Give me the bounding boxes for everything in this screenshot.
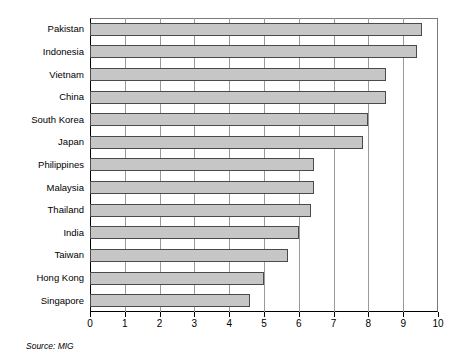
category-label-china: China bbox=[59, 92, 84, 102]
x-tick-label-3: 3 bbox=[182, 318, 206, 329]
x-tick-mark-7 bbox=[334, 312, 335, 317]
x-tick-mark-8 bbox=[368, 312, 369, 317]
bar-row bbox=[90, 222, 438, 245]
bar-row bbox=[90, 244, 438, 267]
category-label-india: India bbox=[63, 228, 84, 238]
bar-row bbox=[90, 86, 438, 109]
category-label-singapore: Singapore bbox=[41, 296, 84, 306]
x-tick-mark-4 bbox=[229, 312, 230, 317]
bar-south-korea[interactable] bbox=[90, 113, 368, 126]
bar-row bbox=[90, 154, 438, 177]
category-label-taiwan: Taiwan bbox=[54, 250, 84, 260]
bar-taiwan[interactable] bbox=[90, 249, 288, 262]
bar-row bbox=[90, 199, 438, 222]
x-tick-label-6: 6 bbox=[287, 318, 311, 329]
bar-vietnam[interactable] bbox=[90, 68, 386, 81]
category-label-japan: Japan bbox=[58, 137, 84, 147]
category-label-malaysia: Malaysia bbox=[47, 183, 85, 193]
bar-philippines[interactable] bbox=[90, 158, 314, 171]
x-tick-label-9: 9 bbox=[391, 318, 415, 329]
bar-row bbox=[90, 18, 438, 41]
category-label-philippines: Philippines bbox=[38, 160, 84, 170]
bar-hong-kong[interactable] bbox=[90, 272, 264, 285]
x-tick-label-7: 7 bbox=[322, 318, 346, 329]
bar-row bbox=[90, 63, 438, 86]
bar-india[interactable] bbox=[90, 226, 299, 239]
bar-row bbox=[90, 289, 438, 312]
x-tick-label-8: 8 bbox=[356, 318, 380, 329]
bar-thailand[interactable] bbox=[90, 204, 311, 217]
x-tick-label-4: 4 bbox=[217, 318, 241, 329]
x-tick-label-10: 10 bbox=[426, 318, 450, 329]
category-label-south-korea: South Korea bbox=[31, 115, 84, 125]
bar-indonesia[interactable] bbox=[90, 45, 417, 58]
category-label-thailand: Thailand bbox=[48, 205, 84, 215]
bars-group bbox=[90, 18, 438, 312]
x-tick-mark-5 bbox=[264, 312, 265, 317]
bar-chart-figure: PakistanIndonesiaVietnamChinaSouth Korea… bbox=[0, 0, 464, 364]
x-tick-mark-2 bbox=[160, 312, 161, 317]
bar-pakistan[interactable] bbox=[90, 23, 422, 36]
x-tick-mark-10 bbox=[438, 312, 439, 317]
bar-china[interactable] bbox=[90, 91, 386, 104]
x-tick-label-5: 5 bbox=[252, 318, 276, 329]
bar-malaysia[interactable] bbox=[90, 181, 314, 194]
x-tick-mark-3 bbox=[194, 312, 195, 317]
bar-japan[interactable] bbox=[90, 136, 363, 149]
x-tick-mark-6 bbox=[299, 312, 300, 317]
category-label-pakistan: Pakistan bbox=[48, 24, 84, 34]
category-label-hong-kong: Hong Kong bbox=[36, 273, 84, 283]
x-tick-label-2: 2 bbox=[148, 318, 172, 329]
bar-row bbox=[90, 108, 438, 131]
x-tick-label-1: 1 bbox=[113, 318, 137, 329]
x-tick-mark-1 bbox=[125, 312, 126, 317]
bar-row bbox=[90, 131, 438, 154]
x-tick-label-0: 0 bbox=[78, 318, 102, 329]
category-label-vietnam: Vietnam bbox=[49, 70, 84, 80]
x-tick-mark-0 bbox=[90, 312, 91, 317]
bar-row bbox=[90, 176, 438, 199]
bar-row bbox=[90, 41, 438, 64]
x-tick-mark-9 bbox=[403, 312, 404, 317]
category-label-indonesia: Indonesia bbox=[43, 47, 84, 57]
source-note: Source: MIG bbox=[26, 341, 74, 351]
bar-singapore[interactable] bbox=[90, 294, 250, 307]
bar-row bbox=[90, 267, 438, 290]
